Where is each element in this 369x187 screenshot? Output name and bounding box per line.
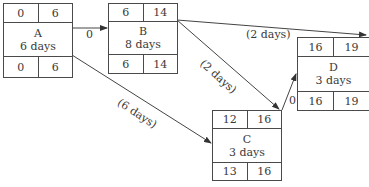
node-a-es: 0 (4, 4, 39, 22)
node-c-es: 12 (213, 111, 248, 128)
edge-label-c-d: 0 (289, 94, 296, 107)
node-d-es: 16 (298, 38, 334, 56)
node-c-name: C (243, 133, 251, 146)
node-a-lf: 6 (39, 57, 73, 77)
node-d-ls: 16 (298, 92, 334, 110)
node-d-duration: 3 days (316, 74, 352, 87)
node-b-ef: 14 (144, 4, 178, 21)
node-c: 12 16 C 3 days 13 16 (212, 110, 282, 181)
node-a-name: A (34, 27, 42, 40)
node-b-es: 6 (109, 4, 144, 21)
node-d-name: D (329, 61, 338, 74)
edge-label-a-b: 0 (86, 28, 93, 41)
node-d: 16 19 D 3 days 16 19 (297, 37, 369, 111)
node-a-ls: 0 (4, 57, 39, 77)
node-a-ef: 6 (39, 4, 73, 22)
node-a: 0 6 A 6 days 0 6 (3, 3, 73, 78)
node-b-ls: 6 (109, 55, 144, 73)
node-b-duration: 8 days (125, 38, 161, 51)
edge-label-b-d: (2 days) (246, 28, 291, 41)
node-d-ef: 19 (334, 38, 369, 56)
node-b: 6 14 B 8 days 6 14 (108, 3, 178, 74)
node-c-duration: 3 days (229, 146, 265, 159)
node-b-lf: 14 (144, 55, 178, 73)
node-c-ls: 13 (213, 163, 248, 180)
node-d-lf: 19 (334, 92, 369, 110)
node-c-ef: 16 (248, 111, 282, 128)
node-b-name: B (139, 25, 147, 38)
node-c-lf: 16 (248, 163, 282, 180)
node-a-duration: 6 days (20, 40, 56, 53)
